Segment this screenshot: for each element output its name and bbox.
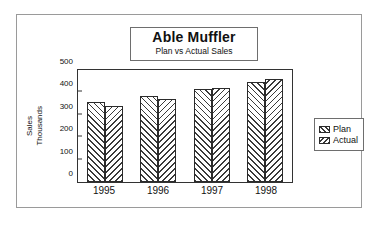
- x-axis-tick-label: 1997: [201, 185, 223, 196]
- x-axis-labels: 1995199619971998: [77, 185, 293, 196]
- y-axis-tick-label: 400: [60, 79, 73, 88]
- y-axis-title: Sales Thousands: [25, 69, 44, 183]
- bar-group: [247, 70, 283, 182]
- y-axis-title-line-2: Thousands: [35, 106, 44, 146]
- x-axis-tick-label: 1996: [147, 185, 169, 196]
- bar-actual-1998: [265, 79, 283, 182]
- y-axis-tick-label: 300: [60, 101, 73, 110]
- y-axis-tick-label: 0: [69, 169, 73, 178]
- plot-area: 0100200300400500: [77, 69, 293, 183]
- bar-actual-1996: [158, 99, 176, 182]
- chart-subtitle: Plan vs Actual Sales: [131, 46, 257, 57]
- bar-groups: [78, 70, 292, 182]
- legend-label-actual: Actual: [333, 135, 358, 145]
- bar-plan-1996: [140, 96, 158, 182]
- bar-actual-1997: [212, 88, 230, 182]
- y-axis-tick-label: 500: [60, 57, 73, 66]
- legend-item-plan: Plan: [319, 124, 358, 134]
- bar-plan-1995: [87, 102, 105, 182]
- legend-label-plan: Plan: [333, 124, 351, 134]
- bar-plan-1997: [194, 89, 212, 182]
- y-axis-title-line-1: Sales: [25, 116, 34, 136]
- bar-group: [194, 70, 230, 182]
- bar-group: [140, 70, 176, 182]
- legend-swatch-plan-icon: [319, 126, 330, 133]
- chart-outer-frame: Able Muffler Plan vs Actual Sales Sales …: [16, 14, 362, 208]
- chart-legend: Plan Actual: [314, 118, 364, 151]
- chart-title-box: Able Muffler Plan vs Actual Sales: [130, 27, 258, 61]
- y-axis-tick-label: 100: [60, 146, 73, 155]
- x-axis-tick-label: 1998: [255, 185, 277, 196]
- bar-actual-1995: [105, 106, 123, 182]
- legend-swatch-actual-icon: [319, 137, 330, 144]
- legend-item-actual: Actual: [319, 135, 358, 145]
- bar-group: [87, 70, 123, 182]
- x-axis-tick-label: 1995: [93, 185, 115, 196]
- chart-title: Able Muffler: [131, 30, 257, 45]
- y-axis-tick-label: 200: [60, 124, 73, 133]
- bar-plan-1998: [247, 82, 265, 182]
